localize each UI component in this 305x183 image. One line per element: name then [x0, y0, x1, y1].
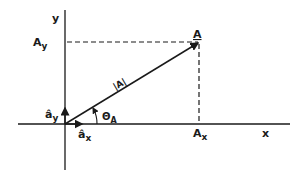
y-axis-label: y [52, 12, 59, 25]
x-axis-label: x [262, 127, 269, 140]
unit-vector-y-label: ây [45, 108, 58, 123]
vector-tip-label: A [193, 28, 202, 41]
component-x-label: Ax [193, 127, 208, 142]
angle-label: ΘA [102, 111, 118, 125]
vector-A [65, 43, 198, 124]
angle-arc [93, 108, 97, 124]
component-y-label: Ay [33, 36, 48, 51]
vector-diagram: y x Ay Ax A |A| ây âx ΘA [0, 0, 305, 183]
unit-vector-x-label: âx [78, 128, 91, 143]
magnitude-label: |A| [111, 76, 128, 91]
